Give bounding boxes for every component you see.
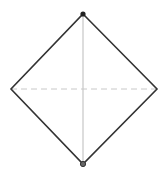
bottom-vertex-point[interactable] <box>80 161 85 166</box>
top-vertex-point[interactable] <box>80 11 85 16</box>
diamond-diagram <box>0 0 165 176</box>
